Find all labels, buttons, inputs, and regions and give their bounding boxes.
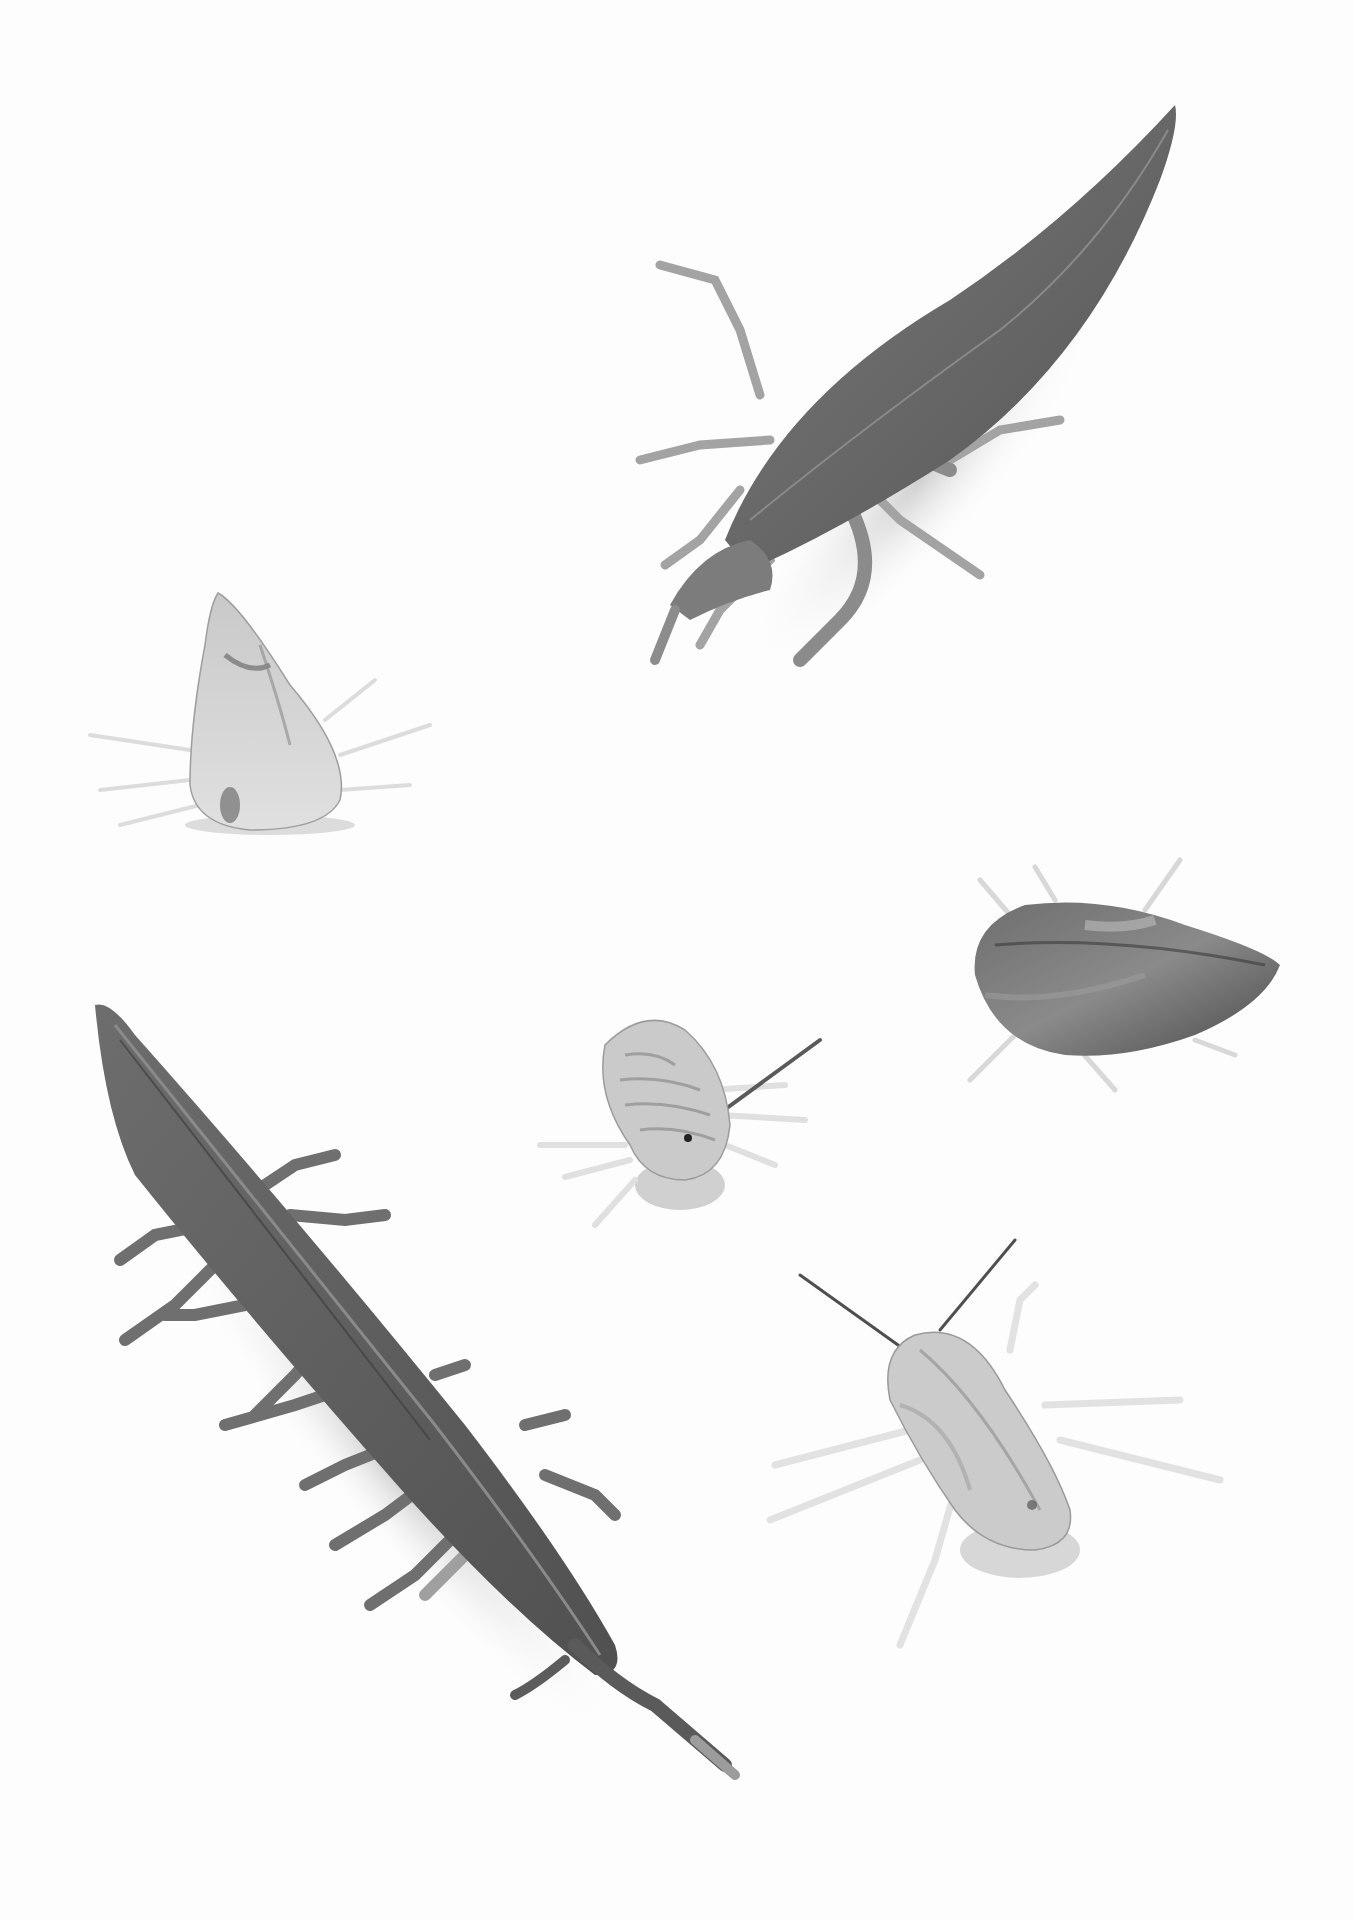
dark-seed-illustration — [955, 855, 1285, 1095]
pointed-seed-insect-left: Pale pointed seed with root legs — [90, 585, 440, 835]
long-pod-insect-upper-right: Long curved pod with twig legs — [620, 100, 1260, 680]
long-pod-insect-lower-left: Long ridged pod with many twig legs — [95, 995, 775, 1785]
peanut-insect-lower-right: Peanut with two antennae and long legs — [770, 1230, 1210, 1650]
photograph: Long curved pod with twig legs — [0, 0, 1354, 1920]
long-pod-lower-illustration — [95, 995, 775, 1785]
long-pod-illustration — [620, 100, 1260, 680]
dark-seed-insect-right: Dark mottled seed with pale legs — [955, 855, 1285, 1095]
pointed-seed-illustration — [90, 585, 440, 835]
peanut-lower-right-illustration — [770, 1230, 1210, 1650]
